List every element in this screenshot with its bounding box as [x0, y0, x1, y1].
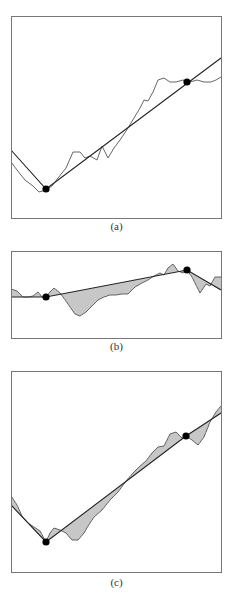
signal-curve [11, 77, 221, 192]
caption-b: (b) [0, 340, 233, 352]
breakpoint-dot [183, 78, 190, 85]
panel-b [11, 252, 222, 339]
breakpoint-dot [42, 293, 49, 300]
breakpoint-dot [182, 432, 189, 439]
breakpoint-dot [183, 266, 190, 273]
caption-a: (a) [0, 220, 233, 232]
panel-c [11, 372, 222, 573]
piecewise-fit-line [11, 58, 221, 189]
signal-curve [11, 406, 221, 542]
piecewise-fit-line [11, 413, 221, 542]
residual-hatching [12, 407, 220, 540]
caption-c: (c) [0, 576, 233, 588]
breakpoint-dot [42, 538, 49, 545]
panel-a [11, 17, 222, 219]
breakpoint-dot [42, 185, 49, 192]
figure-canvas [0, 0, 233, 597]
